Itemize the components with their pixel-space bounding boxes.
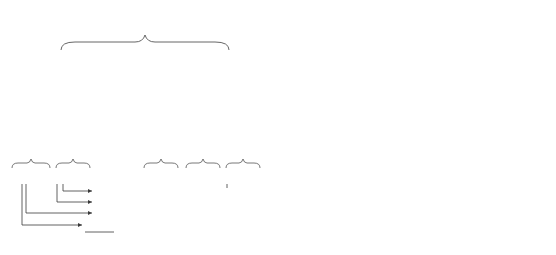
diagram-lines bbox=[0, 0, 556, 255]
big-brace bbox=[61, 35, 229, 50]
